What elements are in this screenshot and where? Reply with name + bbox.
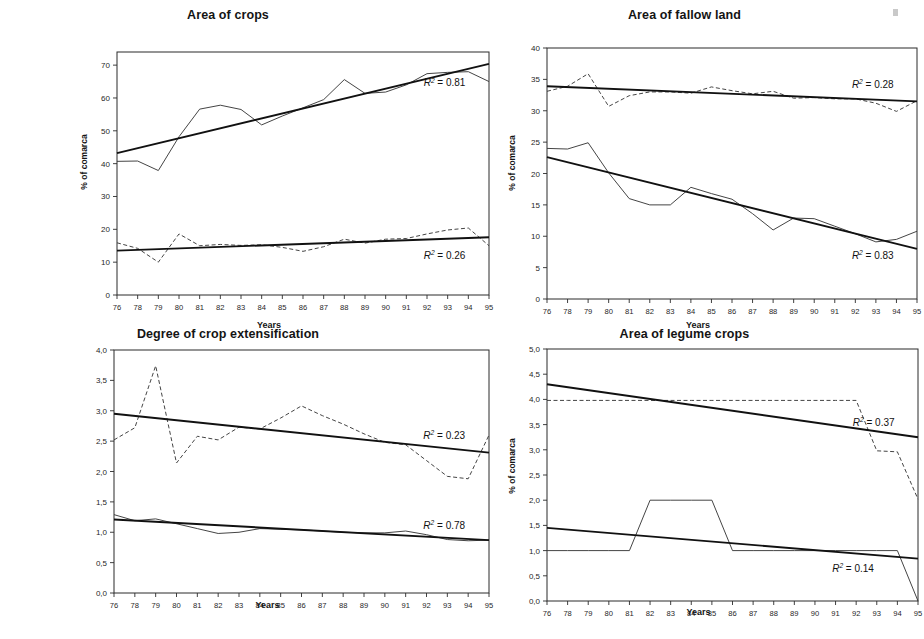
chart-svg: 0510152025303540767879808182838485868788…	[513, 48, 923, 329]
svg-text:90: 90	[811, 609, 819, 618]
svg-text:10: 10	[101, 258, 110, 267]
plot-area: 0,00,51,01,52,02,53,03,54,07678798081828…	[80, 350, 455, 593]
svg-text:87: 87	[319, 303, 327, 312]
svg-text:60: 60	[101, 94, 110, 103]
chart-svg: 0102030405060707678798081828384858687888…	[83, 52, 495, 325]
svg-text:94: 94	[893, 609, 901, 618]
svg-text:0,0: 0,0	[96, 589, 108, 598]
svg-text:86: 86	[299, 303, 307, 312]
svg-text:0,0: 0,0	[529, 597, 541, 606]
panel-title: Area of legume crops	[456, 327, 913, 341]
svg-text:0: 0	[536, 295, 541, 304]
svg-text:91: 91	[831, 307, 839, 316]
panel-area-of-crops: Area of crops % of comarca Years 0102030…	[0, 0, 456, 319]
svg-text:90: 90	[810, 307, 818, 316]
svg-text:88: 88	[339, 601, 347, 610]
svg-text:89: 89	[789, 307, 797, 316]
svg-text:84: 84	[687, 307, 695, 316]
svg-text:90: 90	[381, 601, 389, 610]
svg-text:89: 89	[790, 609, 798, 618]
svg-text:1,0: 1,0	[96, 528, 108, 537]
svg-text:35: 35	[531, 75, 540, 84]
panel-title: Degree of crop extensification	[0, 327, 456, 341]
svg-text:20: 20	[531, 170, 540, 179]
svg-text:90: 90	[381, 303, 389, 312]
svg-text:94: 94	[892, 307, 900, 316]
svg-text:R2 = 0.83: R2 = 0.83	[852, 249, 894, 261]
svg-text:78: 78	[563, 609, 571, 618]
svg-text:2,0: 2,0	[96, 468, 108, 477]
svg-text:92: 92	[851, 307, 859, 316]
svg-text:89: 89	[360, 601, 368, 610]
svg-text:83: 83	[237, 303, 245, 312]
plot-area: 0510152025303540767879808182838485868788…	[513, 48, 883, 299]
svg-text:76: 76	[113, 303, 121, 312]
svg-text:86: 86	[297, 601, 305, 610]
svg-text:R2 = 0.14: R2 = 0.14	[832, 562, 874, 574]
svg-text:81: 81	[625, 609, 633, 618]
svg-text:78: 78	[131, 601, 139, 610]
scan-speck	[893, 9, 898, 16]
svg-text:87: 87	[748, 307, 756, 316]
svg-text:87: 87	[749, 609, 757, 618]
svg-text:92: 92	[852, 609, 860, 618]
svg-text:88: 88	[340, 303, 348, 312]
svg-text:91: 91	[401, 601, 409, 610]
svg-text:3,5: 3,5	[96, 376, 108, 385]
svg-text:5,0: 5,0	[529, 345, 541, 354]
svg-text:81: 81	[195, 303, 203, 312]
svg-text:30: 30	[101, 192, 110, 201]
svg-text:84: 84	[687, 609, 695, 618]
svg-text:80: 80	[604, 307, 612, 316]
svg-text:81: 81	[625, 307, 633, 316]
svg-text:1,0: 1,0	[529, 547, 541, 556]
plot-area: 0,00,51,01,52,02,53,03,54,04,55,07678798…	[513, 349, 884, 601]
svg-text:0,5: 0,5	[96, 559, 108, 568]
panel-title: Area of fallow land	[456, 8, 913, 22]
svg-text:3,5: 3,5	[529, 421, 541, 430]
svg-text:93: 93	[443, 601, 451, 610]
svg-text:4,0: 4,0	[529, 395, 541, 404]
svg-text:88: 88	[769, 307, 777, 316]
svg-text:4,0: 4,0	[96, 346, 108, 355]
svg-text:0,5: 0,5	[529, 572, 541, 581]
svg-text:95: 95	[914, 609, 922, 618]
svg-text:40: 40	[531, 44, 540, 53]
panel-area-of-fallow-land: Area of fallow land % of comarca Years 0…	[456, 0, 913, 319]
svg-text:82: 82	[646, 609, 654, 618]
plot-area: 0102030405060707678798081828384858687888…	[83, 52, 455, 295]
svg-text:50: 50	[101, 127, 110, 136]
svg-text:84: 84	[257, 303, 265, 312]
svg-text:20: 20	[101, 225, 110, 234]
svg-text:2,5: 2,5	[96, 437, 108, 446]
svg-text:84: 84	[256, 601, 264, 610]
svg-text:R2 = 0.37: R2 = 0.37	[853, 416, 895, 428]
svg-text:40: 40	[101, 160, 110, 169]
svg-text:93: 93	[873, 609, 881, 618]
panel-title: Area of crops	[0, 8, 456, 22]
svg-text:78: 78	[563, 307, 571, 316]
svg-text:85: 85	[276, 601, 284, 610]
svg-text:76: 76	[543, 609, 551, 618]
svg-text:1,5: 1,5	[529, 521, 541, 530]
svg-text:80: 80	[175, 303, 183, 312]
svg-text:82: 82	[214, 601, 222, 610]
svg-text:85: 85	[707, 307, 715, 316]
svg-text:R2 = 0.28: R2 = 0.28	[852, 78, 894, 90]
svg-text:92: 92	[422, 601, 430, 610]
svg-text:76: 76	[543, 307, 551, 316]
svg-text:15: 15	[531, 201, 540, 210]
svg-text:1,5: 1,5	[96, 498, 108, 507]
svg-text:82: 82	[216, 303, 224, 312]
svg-text:83: 83	[666, 307, 674, 316]
svg-text:92: 92	[423, 303, 431, 312]
svg-text:87: 87	[318, 601, 326, 610]
svg-text:91: 91	[402, 303, 410, 312]
svg-text:78: 78	[133, 303, 141, 312]
svg-text:70: 70	[101, 61, 110, 70]
svg-text:25: 25	[531, 138, 540, 147]
svg-text:79: 79	[151, 601, 159, 610]
svg-text:10: 10	[531, 232, 540, 241]
svg-text:80: 80	[605, 609, 613, 618]
svg-text:88: 88	[769, 609, 777, 618]
